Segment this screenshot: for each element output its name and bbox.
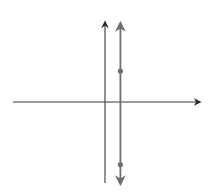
coordinate-plane [0,0,217,196]
point-1-neg4 [118,162,123,167]
point-1-2 [118,68,123,73]
